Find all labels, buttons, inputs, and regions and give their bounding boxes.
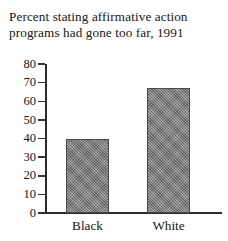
y-axis-tick-mark	[38, 212, 45, 214]
y-axis-tick-label: 80	[2, 58, 36, 71]
y-axis-tick-mark	[38, 138, 45, 140]
y-axis-tick-label: 10	[2, 188, 36, 201]
y-axis-tick-mark	[38, 63, 45, 65]
bar-white	[147, 88, 190, 213]
y-axis-tick-label: 70	[2, 76, 36, 89]
x-axis-label-black: Black	[48, 218, 128, 233]
y-axis-tick-mark	[38, 119, 45, 121]
y-axis-tick-label: 30	[2, 151, 36, 164]
y-axis-tick-mark	[38, 194, 45, 196]
bar-chart-figure: Percent stating affirmative action progr…	[0, 0, 228, 241]
y-axis-tick-label: 50	[2, 114, 36, 127]
y-axis-tick-mark	[38, 175, 45, 177]
x-axis-label-white: White	[129, 218, 209, 233]
y-axis-tick-label: 40	[2, 132, 36, 145]
bar-black	[66, 139, 109, 214]
y-axis-tick-mark	[38, 82, 45, 84]
y-axis-tick-label: 60	[2, 95, 36, 108]
plot-area: 01020304050607080 BlackWhite	[0, 0, 228, 241]
bars-layer	[45, 64, 222, 213]
y-axis-tick-mark	[38, 156, 45, 158]
y-axis-tick-mark	[38, 101, 45, 103]
y-axis-tick-label: 20	[2, 169, 36, 182]
y-axis-tick-label: 0	[2, 207, 36, 220]
